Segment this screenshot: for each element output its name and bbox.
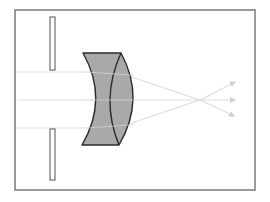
slit-top	[50, 17, 55, 70]
diagram-canvas	[0, 0, 270, 202]
optics-diagram	[0, 0, 270, 202]
slit-bottom	[50, 129, 55, 180]
